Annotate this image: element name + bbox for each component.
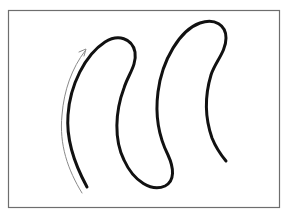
diagram-canvas	[0, 0, 291, 214]
frame-border	[9, 11, 280, 208]
wavy-curve	[68, 21, 226, 187]
direction-arrow-shaft	[61, 51, 85, 193]
